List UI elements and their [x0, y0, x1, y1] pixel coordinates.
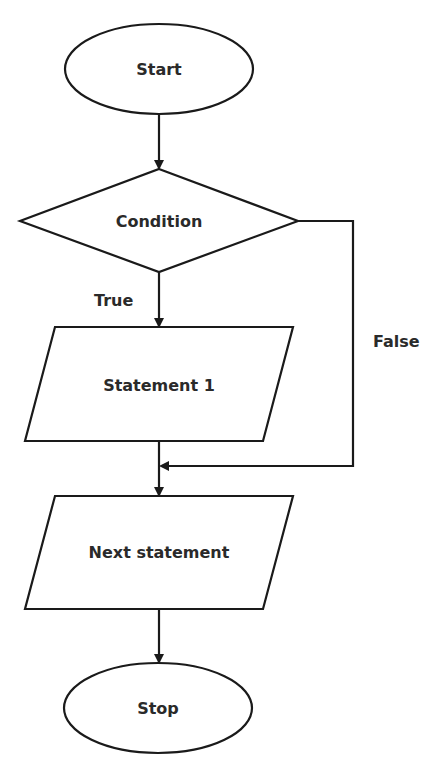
stop-label: Stop: [137, 699, 179, 718]
false-label: False: [373, 332, 420, 351]
condition-label: Condition: [116, 212, 203, 231]
flowchart: Start Condition True Statement 1 False N…: [0, 0, 441, 776]
statement1-node: Statement 1: [25, 327, 293, 441]
start-label: Start: [136, 60, 182, 79]
condition-node: Condition: [20, 169, 298, 272]
start-node: Start: [65, 24, 253, 114]
next-statement-label: Next statement: [89, 543, 230, 562]
true-label: True: [94, 291, 133, 310]
stop-node: Stop: [64, 663, 252, 753]
next-statement-node: Next statement: [25, 496, 293, 609]
statement1-label: Statement 1: [103, 376, 215, 395]
